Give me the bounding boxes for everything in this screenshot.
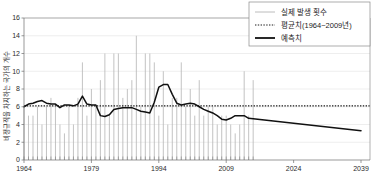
- y-tick-label: 0: [16, 156, 20, 163]
- y-tick-label: 8: [16, 85, 20, 92]
- x-tick-label: 2039: [353, 165, 369, 172]
- y-axis-title: 비정규직을 차지하는 국가의 개수: [2, 51, 11, 140]
- x-tick-label: 1994: [151, 165, 167, 172]
- y-tick-label: 4: [16, 121, 20, 128]
- y-tick-label: 12: [12, 50, 20, 57]
- y-tick-label: 2: [16, 139, 20, 146]
- y-tick-label: 6: [16, 103, 20, 110]
- legend-label: 실제 발생 횟수: [281, 7, 327, 17]
- x-tick-label: 2009: [218, 165, 234, 172]
- x-tick-label: 2024: [286, 165, 302, 172]
- x-tick-label: 1964: [16, 165, 32, 172]
- chart-legend: 실제 발생 횟수평균치(1964~2009년)예측치: [249, 2, 370, 46]
- y-tick-label: 10: [12, 68, 20, 75]
- legend-label: 평균치(1964~2009년): [281, 20, 352, 30]
- y-tick-label: 14: [12, 32, 20, 39]
- occurrence-forecast-chart: 0246810121416 196419791994200920242039 비…: [0, 0, 375, 183]
- x-tick-label: 1979: [84, 165, 100, 172]
- legend-label: 예측치: [281, 33, 302, 43]
- chart-container: 0246810121416 196419791994200920242039 비…: [0, 0, 375, 183]
- y-tick-label: 16: [12, 14, 20, 21]
